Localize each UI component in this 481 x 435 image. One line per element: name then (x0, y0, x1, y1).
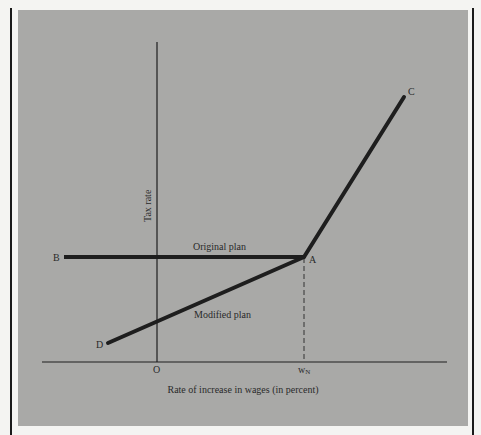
point-b-label: B (53, 252, 60, 263)
y-axis-label: Tax rate (142, 189, 153, 222)
modified-plan-label: Modified plan (194, 309, 251, 320)
point-a-label: A (309, 254, 317, 265)
chart-svg: B A C D Original plan Modified plan Tax … (0, 0, 481, 435)
common-segment-line (304, 97, 404, 257)
origin-label: O (153, 364, 160, 375)
point-c-label: C (408, 86, 415, 97)
wn-label: wN (298, 364, 310, 376)
point-d-label: D (96, 339, 103, 350)
modified-plan-line (108, 257, 304, 343)
original-plan-label: Original plan (193, 241, 246, 252)
x-axis-label: Rate of increase in wages (in percent) (167, 384, 318, 396)
